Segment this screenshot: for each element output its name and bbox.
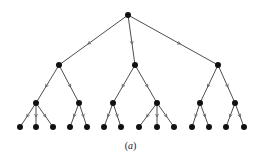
tree-edge [59, 15, 128, 65]
tree-edge [128, 15, 218, 65]
leaf-node [17, 124, 23, 130]
internal-node [76, 100, 82, 106]
leaf-node [241, 124, 247, 130]
figure-caption: (a) [0, 140, 261, 151]
tree-edge [139, 103, 157, 127]
leaf-node [67, 124, 73, 130]
tree-edge [226, 103, 235, 127]
internal-node [132, 62, 138, 68]
leaf-node [206, 124, 212, 130]
tree-edge [79, 103, 87, 127]
tree-edge [200, 65, 218, 103]
internal-node [33, 100, 39, 106]
tree-edge [200, 103, 209, 127]
tree-edge [135, 65, 157, 103]
internal-node [110, 100, 116, 106]
tree-edge [157, 103, 174, 127]
tree-edge [113, 103, 121, 127]
tree-edge [36, 65, 59, 103]
internal-node [215, 62, 221, 68]
tree-edge [113, 65, 135, 103]
leaf-node [136, 124, 142, 130]
leaf-node [101, 124, 107, 130]
edge-arrowheads [27, 41, 241, 117]
internal-node [197, 100, 203, 106]
tree-edge [59, 65, 79, 103]
leaf-node [118, 124, 124, 130]
tree-edges [20, 15, 244, 127]
tree-edge [235, 103, 244, 127]
caption-close-paren: ) [133, 140, 136, 151]
internal-node [154, 100, 160, 106]
tree-edge [192, 103, 200, 127]
tree-edge [20, 103, 36, 127]
tree-edge [36, 103, 53, 127]
tree-edge [218, 65, 235, 103]
leaf-node [171, 124, 177, 130]
internal-node [232, 100, 238, 106]
leaf-node [189, 124, 195, 130]
directed-tree-diagram [0, 0, 261, 157]
tree-edge [104, 103, 113, 127]
leaf-node [33, 124, 39, 130]
root-node [125, 12, 131, 18]
internal-node [56, 62, 62, 68]
leaf-node [154, 124, 160, 130]
leaf-node [84, 124, 90, 130]
tree-edge [128, 15, 135, 65]
leaf-node [50, 124, 56, 130]
leaf-node [223, 124, 229, 130]
tree-edge [70, 103, 79, 127]
